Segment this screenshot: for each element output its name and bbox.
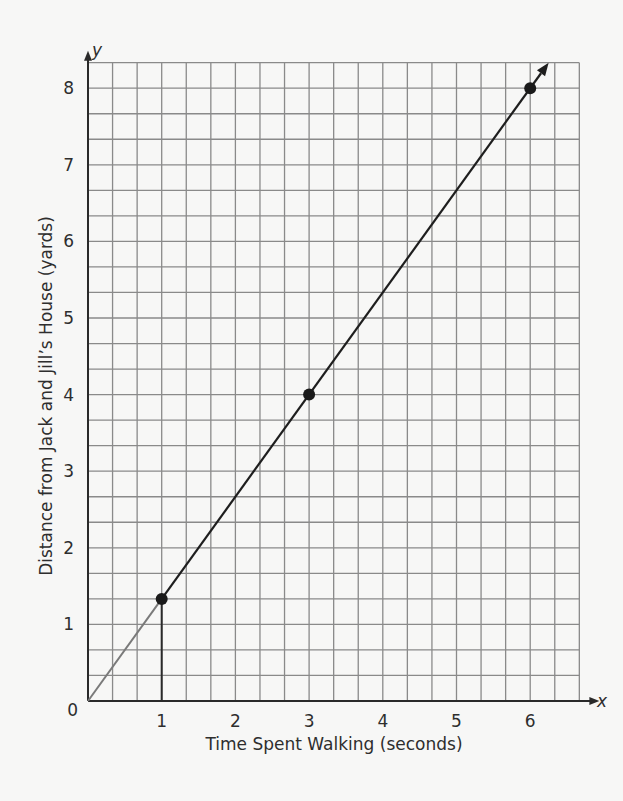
data-series	[88, 63, 549, 701]
y-axis-arrow-icon	[84, 51, 92, 61]
series-line	[162, 73, 541, 599]
y-axis-title: Distance from Jack and Jill’s House (yar…	[36, 216, 56, 576]
data-point	[156, 593, 168, 605]
line-chart: 12345612345678 Time Spent Walking (secon…	[0, 0, 623, 801]
x-tick-label: 1	[156, 711, 167, 731]
x-axis-title: Time Spent Walking (seconds)	[204, 734, 462, 754]
y-tick-label: 1	[63, 614, 74, 634]
y-tick-label: 5	[63, 308, 74, 328]
y-tick-label: 4	[63, 385, 74, 405]
x-tick-label: 6	[525, 711, 536, 731]
line-arrow-icon	[537, 63, 549, 76]
y-tick-label: 8	[63, 78, 74, 98]
data-point	[524, 82, 536, 94]
tick-labels: 12345612345678	[63, 78, 535, 731]
x-tick-label: 2	[230, 711, 241, 731]
y-tick-label: 2	[63, 538, 74, 558]
data-point	[303, 389, 315, 401]
y-axis-letter: y	[91, 40, 103, 60]
x-tick-label: 5	[451, 711, 462, 731]
y-tick-label: 6	[63, 231, 74, 251]
y-tick-label: 7	[63, 155, 74, 175]
y-tick-label: 3	[63, 461, 74, 481]
x-axis-letter: x	[596, 691, 608, 711]
x-tick-label: 3	[304, 711, 315, 731]
x-tick-label: 4	[377, 711, 388, 731]
chart-container: 12345612345678 Time Spent Walking (secon…	[0, 0, 623, 801]
origin-label: 0	[67, 700, 78, 720]
